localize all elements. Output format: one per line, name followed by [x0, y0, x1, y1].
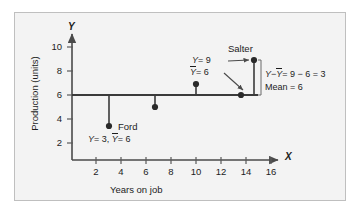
data-point-3 [193, 81, 199, 87]
salter-y-value: = 9 [198, 55, 211, 65]
data-point-mean [238, 92, 244, 98]
salter-ybar-value: = 6 [196, 67, 209, 77]
y-tick-label-4: 4 [44, 114, 62, 124]
x-axis-symbol: X [285, 152, 292, 162]
leader-salter-y [228, 60, 249, 61]
ford-ybar-value: = 6 [118, 134, 131, 144]
y-tick-label-2: 2 [44, 138, 62, 148]
data-point-salter [251, 57, 257, 63]
salter-label: Salter [228, 44, 253, 54]
ford-label: Ford [118, 122, 138, 132]
x-tick-label-8: 8 [161, 167, 181, 177]
plot-canvas [0, 0, 362, 219]
data-point-ford [106, 123, 112, 129]
y-axis-title: Production (units) [29, 34, 40, 154]
data-point-2 [152, 104, 158, 110]
y-tick-label-6: 6 [44, 90, 62, 100]
x-tick-label-16: 16 [261, 167, 281, 177]
x-axis-title: Years on job [110, 184, 162, 195]
salter-y-annotation: Y= 9 [192, 56, 211, 65]
x-tick-label-6: 6 [136, 167, 156, 177]
x-tick-label-14: 14 [236, 167, 256, 177]
x-tick-label-4: 4 [111, 167, 131, 177]
ford-values: Y= 3, Y= 6 [88, 135, 131, 144]
salter-ybar-symbol: Y [190, 68, 196, 77]
ford-y-value: = 3, [94, 134, 109, 144]
x-tick-label-10: 10 [186, 167, 206, 177]
y-axis-symbol: Y [68, 22, 75, 32]
x-tick-label-12: 12 [211, 167, 231, 177]
salter-ybar-annotation: Y= 6 [190, 68, 209, 77]
ford-ybar-symbol: Y [112, 135, 118, 144]
deviation-bracket [258, 60, 261, 95]
mean-note: Mean = 6 [265, 83, 303, 92]
deviation-ybar-symbol: Y [276, 70, 282, 79]
leader-salter-ybar [224, 73, 243, 90]
y-tick-label-10: 10 [44, 42, 62, 52]
y-tick-label-8: 8 [44, 66, 62, 76]
x-tick-label-2: 2 [86, 167, 106, 177]
deviation-annotation: Y−Y= 9 − 6 = 3 [265, 70, 326, 79]
deviation-rest: = 9 − 6 = 3 [282, 69, 325, 79]
figure-root: 10 8 6 4 2 2 4 6 8 10 12 14 16 Y X Produ… [0, 0, 362, 219]
